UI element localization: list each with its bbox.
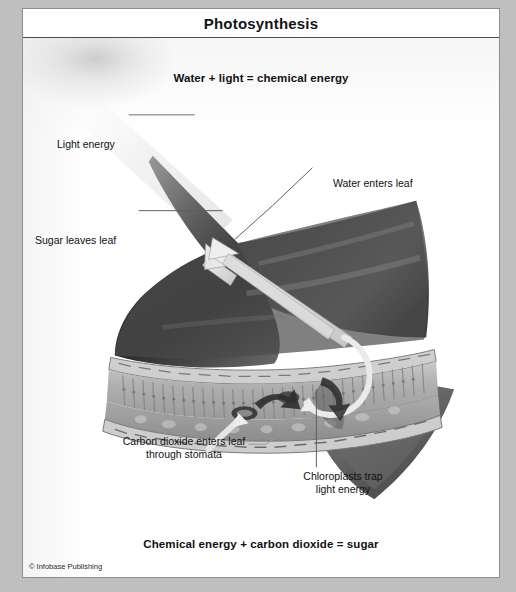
leaf-blade-tip (149, 156, 239, 260)
stoma-opening (232, 406, 258, 420)
label-water-enters-leaf: Water enters leaf (333, 177, 413, 190)
equation-top: Water + light = chemical energy (23, 72, 499, 84)
leaf-illustration (23, 38, 499, 577)
copyright-notice: © Infobase Publishing (23, 562, 229, 571)
equation-bottom: Chemical energy + carbon dioxide = sugar (23, 538, 499, 550)
label-carbon-dioxide: Carbon dioxide enters leaf through stoma… (91, 435, 277, 461)
label-light-energy: Light energy (57, 138, 115, 151)
label-sugar-leaves-leaf: Sugar leaves leaf (35, 234, 116, 247)
label-chloroplasts: Chloroplasts trap light energy (263, 470, 423, 496)
title-bar: Photosynthesis (23, 9, 499, 38)
figure-root: Photosynthesis (0, 0, 516, 592)
illustration-canvas: Water + light = chemical energy Light en… (23, 38, 499, 577)
page-title: Photosynthesis (204, 15, 319, 32)
figure-panel: Photosynthesis (22, 8, 500, 578)
